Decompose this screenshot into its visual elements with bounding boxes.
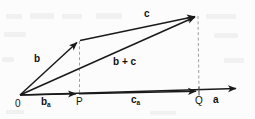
vector-c-arrow [80,17,195,41]
label-vector-b-plus-c: b + c [113,57,136,67]
label-projection-c-a-main: c [131,94,137,105]
label-origin: 0 [15,99,21,109]
label-point-p: P [76,97,83,107]
label-vector-c: c [144,9,150,19]
label-vector-b: b [34,54,40,64]
label-projection-b-a: ba [41,97,51,107]
label-point-q: Q [195,96,203,106]
axis-a-arrow [20,89,236,96]
vector-b-arrow [20,43,77,96]
label-projection-b-a-subscript: a [47,101,51,108]
vector-diagram-figure: 0 P Q b c b + c a ba ca [0,0,255,119]
label-projection-c-a: ca [131,95,140,105]
label-axis-a: a [213,95,219,105]
label-projection-c-a-subscript: a [137,99,141,106]
vector-b-plus-c-arrow [20,17,195,95]
dashed-line-c-tip-to-q [198,16,199,92]
